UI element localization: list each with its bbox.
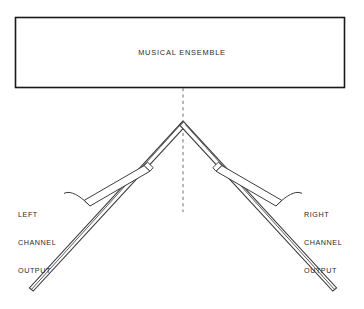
left-channel-output-label: LEFT CHANNEL OUTPUT — [18, 192, 56, 293]
right-channel-output-label: RIGHT CHANNEL OUTPUT — [304, 192, 342, 293]
right-microphone — [213, 162, 302, 206]
right-channel-output-line-3: OUTPUT — [304, 266, 342, 275]
left-channel-output-line-3: OUTPUT — [18, 266, 56, 275]
left-channel-output-line-1: LEFT — [18, 210, 56, 219]
left-microphone-cable-stub — [64, 192, 84, 200]
stereo-microphone-diagram: MUSICAL ENSEMBLE LEFT CHANNEL OUTPUT RIG… — [0, 0, 364, 309]
right-channel-output-line-2: CHANNEL — [304, 238, 342, 247]
left-channel-output-line-2: CHANNEL — [18, 238, 56, 247]
right-channel-output-line-1: RIGHT — [304, 210, 342, 219]
right-microphone-cable-stub — [282, 192, 302, 200]
musical-ensemble-label: MUSICAL ENSEMBLE — [0, 48, 364, 57]
left-microphone — [64, 162, 153, 206]
